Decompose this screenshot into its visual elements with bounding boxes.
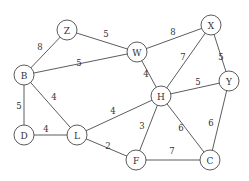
- edge-weight-d-l: 4: [43, 124, 48, 134]
- weighted-graph-diagram: 58854755544423667 ZWXBHYDLFC: [0, 0, 249, 181]
- node-label: F: [133, 156, 139, 166]
- edge-weight-x-y: 5: [218, 52, 223, 62]
- node-w: W: [127, 42, 147, 62]
- edge-weight-w-h: 4: [143, 69, 148, 79]
- edge-weight-b-d: 5: [16, 101, 21, 111]
- node-b: B: [14, 65, 34, 85]
- node-label: B: [21, 71, 28, 81]
- edge-weight-z-b: 8: [37, 42, 42, 52]
- node-y: Y: [219, 71, 239, 91]
- node-label: W: [132, 48, 142, 58]
- edge-weight-x-h: 7: [180, 52, 185, 62]
- node-label: H: [157, 92, 165, 102]
- node-h: H: [151, 86, 171, 106]
- edge-weight-l-f: 2: [105, 141, 110, 151]
- node-d: D: [14, 125, 34, 145]
- edge-weight-h-f: 3: [139, 121, 144, 131]
- node-label: Z: [64, 26, 70, 36]
- nodes-layer: ZWXBHYDLFC: [14, 15, 239, 170]
- node-x: X: [201, 15, 221, 35]
- node-label: X: [208, 21, 215, 31]
- edge-x-h: [161, 25, 211, 96]
- edge-weight-f-c: 7: [169, 146, 174, 156]
- node-label: Y: [225, 77, 233, 87]
- node-c: C: [200, 150, 220, 170]
- edge-weight-h-y: 5: [195, 77, 200, 87]
- edge-weight-w-x: 8: [170, 27, 175, 37]
- edge-b-l: [24, 75, 77, 135]
- edge-weight-z-w: 5: [103, 29, 108, 39]
- node-label: L: [74, 131, 80, 141]
- edge-z-w: [67, 30, 137, 52]
- edge-weight-h-c: 6: [178, 123, 183, 133]
- edge-weight-l-h: 4: [110, 106, 115, 116]
- edge-weight-b-l: 4: [51, 92, 56, 102]
- node-label: C: [207, 156, 214, 166]
- node-l: L: [67, 125, 87, 145]
- edge-weight-b-w: 5: [76, 58, 81, 68]
- edge-weight-y-c: 6: [208, 118, 213, 128]
- node-z: Z: [57, 20, 77, 40]
- node-label: D: [20, 131, 27, 141]
- node-f: F: [126, 150, 146, 170]
